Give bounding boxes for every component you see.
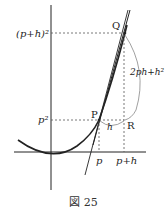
parabola-secant-diagram: (p+h)² p² Q P R h 2ph+h² p p+h 図 25	[0, 0, 167, 214]
label-x-ph: p+h	[116, 155, 137, 166]
tangent-line	[85, 10, 128, 175]
label-rise: 2ph+h²	[129, 67, 165, 77]
label-y-top: (p+h)²	[16, 28, 49, 39]
point-p-dot	[98, 119, 101, 122]
label-h: h	[107, 122, 113, 132]
label-point-p: P	[91, 109, 98, 120]
rise-brace-arc	[125, 35, 140, 120]
label-x-p: p	[96, 155, 103, 166]
parabola-curve	[18, 25, 127, 154]
label-point-r: R	[127, 120, 135, 131]
point-q-dot	[124, 32, 127, 35]
label-point-q: Q	[112, 20, 120, 31]
label-y-mid: p²	[38, 114, 48, 125]
figure-caption: 図 25	[0, 193, 167, 209]
